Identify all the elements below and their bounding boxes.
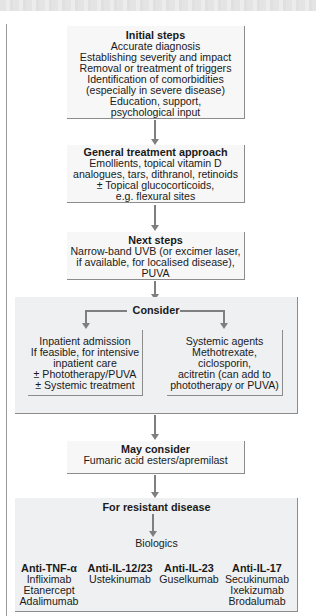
arrow-down-icon: [154, 120, 156, 140]
biologic-drug: Adalimumab: [14, 596, 84, 607]
biologic-drug: Ustekinumab: [84, 574, 156, 585]
inpatient-box: Inpatient admission If feasible, for int…: [28, 330, 143, 396]
initial-steps-box: Initial steps Accurate diagnosis Establi…: [67, 26, 245, 119]
inpatient-line: ± Systemic treatment: [28, 380, 142, 391]
arrow-down-icon: [223, 310, 225, 324]
may-consider-line: Fumaric acid esters/apremilast: [67, 455, 244, 466]
consider-right-line: [180, 310, 225, 312]
biologic-class-anti-tnf: Anti-TNF-α Infliximab Etanercept Adalimu…: [14, 563, 84, 607]
biologic-drug: Guselkumab: [156, 574, 222, 585]
resistant-disease-title: For resistant disease: [15, 502, 298, 513]
arrow-down-icon: [154, 205, 156, 226]
next-steps-box: Next steps Narrow-band UVB (or excimer l…: [67, 232, 245, 280]
biologic-class-anti-il-17: Anti-IL-17 Secukinumab Ixekizumab Brodal…: [222, 563, 292, 607]
arrow-down-icon: [85, 310, 87, 324]
systemic-line: phototherapy or PUVA): [167, 380, 282, 391]
general-treatment-box: General treatment approach Emollients, t…: [67, 145, 245, 203]
general-treatment-line: e.g. flexural sites: [67, 191, 244, 202]
top-band: [0, 0, 316, 11]
biologic-drug: Brodalumab: [222, 596, 292, 607]
consider-title: Consider: [124, 305, 188, 316]
arrow-down-icon: [154, 475, 156, 493]
biologic-class-anti-il-12-23: Anti-IL-12/23 Ustekinumab: [84, 563, 156, 585]
biologic-class-anti-il-23: Anti-IL-23 Guselkumab: [156, 563, 222, 585]
consider-left-line: [85, 310, 127, 312]
arrow-down-icon: [154, 415, 156, 435]
may-consider-box: May consider Fumaric acid esters/apremil…: [67, 441, 245, 474]
systemic-agents-box: Systemic agents Methotrexate, ciclospori…: [167, 330, 283, 396]
initial-steps-line: psychological input: [67, 107, 244, 118]
arrow-down-icon: [152, 514, 154, 532]
next-steps-line: PUVA: [67, 268, 244, 279]
biologics-label: Biologics: [15, 538, 298, 549]
arrow-down-icon: [154, 281, 156, 295]
